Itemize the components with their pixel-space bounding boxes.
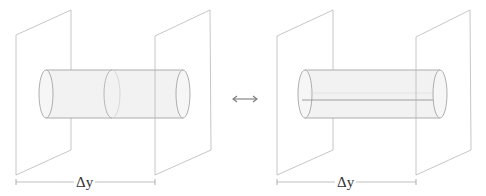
diagram-canvas bbox=[0, 0, 486, 196]
left-panel bbox=[16, 10, 211, 185]
left-panel-delta-y-label: Δy bbox=[74, 174, 95, 190]
equivalence-arrow-icon bbox=[233, 96, 257, 102]
right-panel-delta-y-label: Δy bbox=[335, 174, 356, 190]
right-panel bbox=[277, 10, 471, 185]
left-panel-cylinder bbox=[39, 70, 190, 118]
right-panel-cylinder bbox=[298, 70, 447, 118]
